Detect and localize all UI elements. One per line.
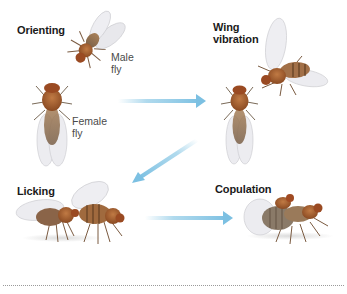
courtship-diagram <box>0 0 347 294</box>
female-fly-orienting <box>32 83 72 166</box>
arrow-orienting-to-wing-vibration <box>118 94 206 108</box>
male-fly-orienting <box>63 3 132 76</box>
arrow-wing-vibration-to-licking <box>132 140 197 183</box>
flies-licking <box>15 176 125 244</box>
arrow-licking-to-copulation <box>145 211 233 225</box>
flies-copulation <box>244 194 334 244</box>
bottom-divider <box>3 285 344 286</box>
female-fly-wing-vibration <box>221 86 258 165</box>
male-fly-wing-vibration <box>258 17 329 96</box>
